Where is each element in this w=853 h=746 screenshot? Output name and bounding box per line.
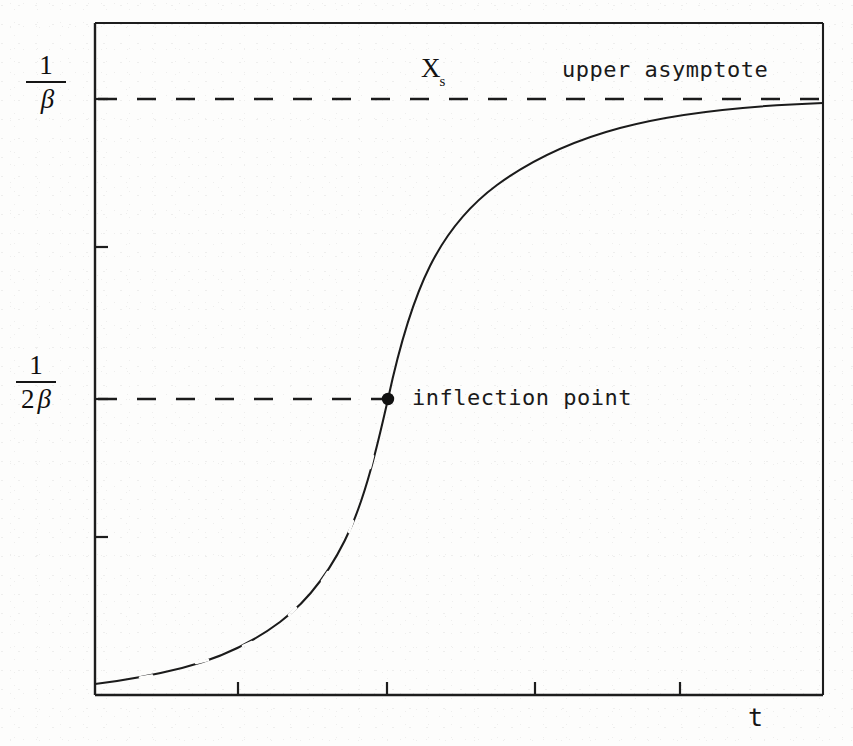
figure-canvas: 1 β 1 2β Xs upper asymptote inflection p…	[0, 0, 853, 746]
x-axis-label: t	[748, 703, 763, 732]
axis-frame	[95, 23, 823, 695]
inflection-point-label: inflection point	[412, 385, 632, 410]
y-axis-ticks	[95, 99, 108, 537]
fraction-numerator: 1	[34, 52, 58, 81]
scan-artifacts	[140, 456, 373, 678]
y-tick-label-upper-asymptote: 1 β	[26, 52, 66, 113]
curve-symbol-label: Xs	[421, 53, 446, 87]
upper-asymptote-label: upper asymptote	[562, 57, 768, 82]
inflection-point-marker	[382, 393, 394, 405]
curve-symbol-base: X	[421, 53, 441, 83]
curve-symbol-subscript: s	[440, 73, 446, 89]
logistic-curve-plot	[0, 0, 853, 746]
fraction-numerator: 1	[24, 352, 48, 381]
x-axis-ticks	[238, 682, 680, 695]
fraction-denominator-symbol: β	[41, 84, 54, 114]
y-tick-label-inflection-level: 1 2β	[16, 352, 56, 413]
fraction-denominator-symbol: β	[38, 384, 51, 414]
fraction-denominator-coefficient: 2	[21, 384, 35, 414]
fraction-denominator: 2β	[16, 383, 56, 413]
fraction-denominator: β	[33, 83, 59, 113]
